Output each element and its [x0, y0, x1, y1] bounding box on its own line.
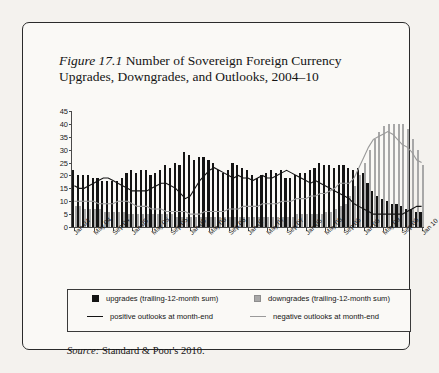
chart-legend: upgrades (trailing-12-month sum) downgra… [67, 289, 411, 332]
downgrades-swatch-icon [254, 295, 261, 302]
legend-item-downgrades: downgrades (trailing-12-month sum) [254, 294, 390, 303]
legend-label-positive-outlooks: positive outlooks at month-end [110, 312, 213, 321]
line-negative-outlooks [74, 132, 421, 214]
legend-item-negative-outlooks: negative outlooks at month-end [250, 312, 379, 321]
legend-item-positive-outlooks: positive outlooks at month-end [87, 312, 213, 321]
legend-item-upgrades: upgrades (trailing-12-month sum) [92, 294, 218, 303]
source-text: Standard & Poor's 2010. [99, 345, 204, 356]
upgrades-swatch-icon [92, 295, 99, 302]
legend-label-negative-outlooks: negative outlooks at month-end [273, 312, 379, 321]
source-note: Source: Standard & Poor's 2010. [67, 345, 205, 356]
figure-label: Figure 17.1 [59, 53, 122, 68]
y-axis-tick-mark [69, 227, 72, 228]
source-label: Source: [67, 345, 99, 356]
figure-title-line2: Upgrades, Downgrades, and Outlooks, 2004… [59, 69, 319, 84]
legend-label-downgrades: downgrades (trailing-12-month sum) [268, 294, 390, 303]
figure-frame: Figure 17.1 Number of Sovereign Foreign … [22, 22, 410, 350]
plot-region: 051015202530354045 Jan 04May 04Sep 04Jan… [71, 111, 424, 228]
line-positive-outlooks [74, 168, 421, 214]
chart-area: 051015202530354045 Jan 04May 04Sep 04Jan… [53, 107, 431, 237]
figure-title-line1: Number of Sovereign Foreign Currency [122, 53, 341, 68]
figure-title: Figure 17.1 Number of Sovereign Foreign … [59, 53, 409, 85]
legend-label-upgrades: upgrades (trailing-12-month sum) [106, 294, 218, 303]
line-series-group [72, 111, 424, 227]
positive-outlook-line-icon [87, 316, 103, 317]
negative-outlook-line-icon [250, 316, 266, 317]
